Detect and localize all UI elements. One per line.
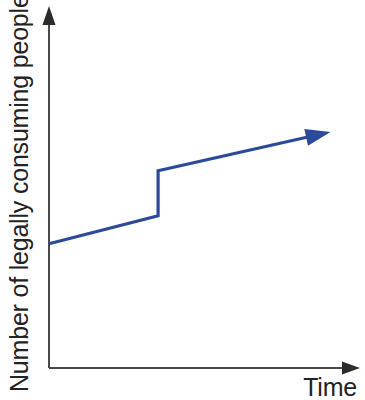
chart-canvas: Number of legally consuming people Time (0, 0, 365, 400)
y-axis-label: Number of legally consuming people (5, 0, 33, 392)
x-axis-label: Time (303, 373, 357, 400)
chart-background (0, 0, 365, 400)
chart-figure: Number of legally consuming people Time (0, 0, 365, 400)
